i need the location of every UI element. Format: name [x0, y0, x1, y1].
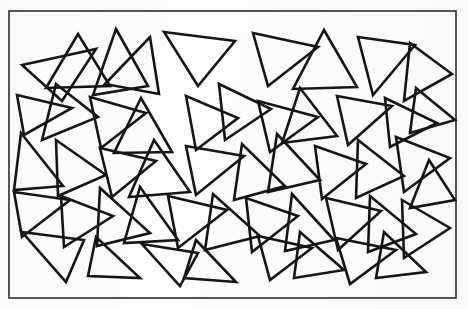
figure-canvas — [0, 0, 468, 309]
triangles-figure — [0, 0, 468, 309]
